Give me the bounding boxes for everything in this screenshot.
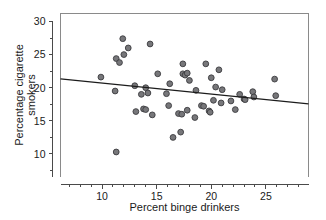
- data-point: [149, 112, 155, 118]
- data-point: [273, 93, 279, 99]
- data-point: [166, 103, 172, 109]
- data-point: [211, 97, 217, 103]
- data-point: [219, 87, 225, 93]
- plot-border: [61, 14, 309, 177]
- y-tick-label: 10: [34, 148, 46, 160]
- data-point: [201, 103, 207, 109]
- data-point: [213, 84, 219, 90]
- data-point: [167, 81, 173, 87]
- y-tick-label: 30: [34, 15, 46, 27]
- data-point: [164, 91, 170, 97]
- x-tick-label: 10: [96, 190, 108, 202]
- data-point: [112, 88, 118, 94]
- data-point: [187, 78, 193, 84]
- data-point: [250, 89, 256, 95]
- data-point: [145, 90, 151, 96]
- data-point: [207, 109, 213, 115]
- data-point: [203, 61, 209, 67]
- x-tick-label: 25: [260, 190, 272, 202]
- data-point: [121, 52, 127, 58]
- data-point: [218, 100, 224, 106]
- y-axis-title-line2: smokers: [25, 74, 37, 116]
- data-point: [184, 107, 190, 113]
- data-points: [98, 36, 279, 155]
- data-point: [179, 111, 185, 117]
- scatter-plot-figure: 1015202530 10152025 Percent binge drinke…: [0, 0, 326, 220]
- y-tick-label: 25: [34, 48, 46, 60]
- x-tick-label: 20: [205, 190, 217, 202]
- data-point: [117, 60, 123, 66]
- x-axis: 10152025: [61, 185, 309, 202]
- data-point: [208, 75, 214, 81]
- plot-canvas: 1015202530 10152025 Percent binge drinke…: [0, 0, 326, 220]
- data-point: [138, 91, 144, 97]
- data-point: [180, 61, 186, 67]
- data-point: [216, 67, 222, 73]
- data-point: [113, 149, 119, 155]
- data-point: [147, 41, 153, 47]
- data-point: [192, 115, 198, 121]
- fit-line: [61, 79, 309, 104]
- data-point: [178, 129, 184, 135]
- data-point: [228, 98, 234, 104]
- data-point: [133, 109, 139, 115]
- data-point: [155, 71, 161, 77]
- data-point: [98, 74, 104, 80]
- data-point: [120, 36, 126, 42]
- axis-titles: Percent binge drinkersPercentage cigaret…: [13, 44, 240, 213]
- regression-line: [61, 79, 309, 104]
- data-point: [232, 107, 238, 113]
- plot-frame: [61, 14, 309, 177]
- data-point: [125, 45, 131, 51]
- data-point: [272, 76, 278, 82]
- data-point: [184, 70, 190, 76]
- data-point: [143, 107, 149, 113]
- x-tick-label: 15: [151, 190, 163, 202]
- x-axis-title: Percent binge drinkers: [129, 201, 240, 213]
- y-axis-title-line1: Percentage cigarette: [13, 44, 25, 146]
- data-point: [170, 135, 176, 141]
